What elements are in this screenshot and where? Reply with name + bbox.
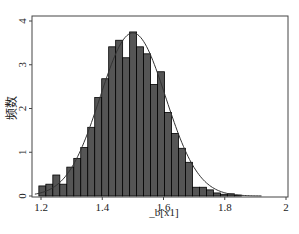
histogram-bar bbox=[165, 112, 172, 196]
histogram-chart: 1.21.41.61.82 01234 _b[x1] 频数 bbox=[0, 0, 299, 234]
histogram-bar bbox=[130, 32, 137, 196]
y-axis-title: 频数 bbox=[4, 96, 19, 120]
y-tick-label: 3 bbox=[16, 62, 28, 68]
y-tick-label: 4 bbox=[16, 18, 28, 24]
histogram-bar bbox=[137, 47, 144, 196]
histogram-bar bbox=[144, 54, 151, 196]
x-axis-title: _b[x1] bbox=[148, 206, 178, 218]
histogram-bar bbox=[88, 127, 95, 196]
histogram-bar bbox=[151, 84, 158, 196]
histogram-bar bbox=[213, 193, 220, 196]
histogram-bar bbox=[199, 187, 206, 196]
histogram-bar bbox=[67, 167, 74, 196]
x-tick-label: 1.4 bbox=[95, 201, 109, 213]
histogram-bar bbox=[116, 40, 123, 196]
histogram-bar bbox=[60, 184, 67, 196]
x-tick-label: 1.8 bbox=[218, 201, 232, 213]
y-tick-label: 1 bbox=[16, 150, 28, 156]
histogram-bar bbox=[39, 186, 46, 196]
histogram-bar bbox=[179, 148, 186, 196]
histogram-bar bbox=[102, 79, 109, 196]
histogram-bar bbox=[220, 194, 227, 196]
histogram-bar bbox=[206, 190, 213, 196]
histogram-bar bbox=[74, 158, 81, 196]
x-tick-label: 2 bbox=[283, 201, 289, 213]
histogram-bar bbox=[192, 187, 199, 196]
histogram-bar bbox=[123, 58, 130, 196]
x-tick-label: 1.2 bbox=[34, 201, 48, 213]
histogram-bar bbox=[172, 133, 179, 196]
y-tick-label: 0 bbox=[16, 193, 28, 199]
histogram-bar bbox=[95, 98, 102, 196]
histogram-bar bbox=[185, 162, 192, 196]
histogram-bar bbox=[81, 147, 88, 196]
